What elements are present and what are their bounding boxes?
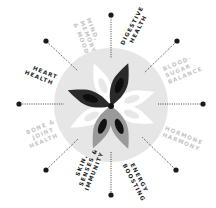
label-bloodsugar: BLOOD- SUGAR BALANCE — [162, 53, 204, 85]
dot-top — [108, 12, 113, 17]
dot-topleft — [43, 38, 48, 43]
health-wheel-diagram: MIND, MEMORY & MOOD DIGESTIVE HEALTH BLO… — [0, 0, 216, 208]
dot-topright — [174, 38, 179, 43]
label-heart: HEART HEALTH — [24, 63, 59, 87]
dot-bottomright — [173, 167, 178, 172]
dot-left — [16, 101, 21, 106]
label-bone: BONE & JOINT HEALTH — [23, 118, 61, 149]
dot-bottom — [108, 192, 113, 197]
flower-center — [108, 103, 114, 109]
label-digestive: DIGESTIVE HEALTH — [119, 5, 151, 49]
spoke-topleft-line — [46, 41, 78, 71]
dot-right — [200, 101, 205, 106]
label-energy: ENERGY BOOSTING — [122, 159, 153, 202]
dot-bottomleft — [43, 167, 48, 172]
label-hormone: HORMONE HARMONY — [162, 125, 204, 152]
